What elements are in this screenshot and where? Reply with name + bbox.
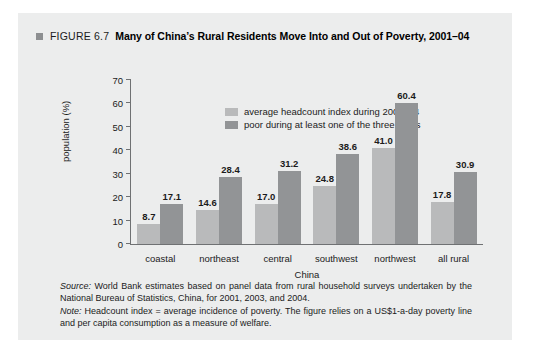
source-label: Source: — [60, 281, 91, 291]
bar-northeast-series-0: 14.6 — [196, 210, 219, 244]
x-tick-label: central — [263, 253, 292, 264]
y-tick-label: 20 — [112, 192, 123, 203]
bar-groups: 8.717.1coastal14.628.4northeast17.031.2c… — [131, 80, 483, 244]
bar-value-label: 60.4 — [397, 90, 416, 101]
figure-title: Many of China’s Rural Residents Move Int… — [115, 30, 469, 42]
note-note: Note: Headcount index = average incidenc… — [60, 305, 472, 330]
bar-value-label: 28.4 — [221, 164, 240, 175]
note-label: Note: — [60, 306, 82, 316]
x-tick-label: northwest — [374, 253, 415, 264]
bar-coastal-series-0: 8.7 — [137, 224, 160, 244]
bar-central-series-1: 31.2 — [278, 171, 301, 244]
bar-value-label: 31.2 — [280, 158, 299, 169]
bar-value-label: 8.7 — [142, 211, 155, 222]
bar-value-label: 30.9 — [456, 159, 475, 170]
figure-number: FIGURE 6.7 — [50, 30, 109, 42]
bar-group: 8.717.1coastal — [137, 80, 183, 244]
x-tick-label: southwest — [315, 253, 358, 264]
figure-panel: FIGURE 6.7 Many of China’s Rural Residen… — [18, 13, 512, 340]
y-tick-label: 10 — [112, 215, 123, 226]
bar-value-label: 17.0 — [257, 191, 276, 202]
plot-area: 010203040506070 average headcount index … — [130, 80, 483, 245]
note-text: Headcount index = average incidence of p… — [60, 306, 472, 328]
bar-value-label: 38.6 — [339, 141, 358, 152]
source-text: World Bank estimates based on panel data… — [60, 281, 472, 303]
bar-northeast-series-1: 28.4 — [219, 177, 242, 244]
y-tick-label: 60 — [112, 98, 123, 109]
y-tick-label: 50 — [112, 121, 123, 132]
y-tick-label: 70 — [112, 75, 123, 86]
x-axis-title: China — [131, 269, 483, 280]
x-tick-label: northeast — [199, 253, 239, 264]
y-axis-title: population (%) — [60, 101, 71, 162]
y-tick-label: 0 — [118, 239, 123, 250]
x-tick-label: all rural — [438, 253, 469, 264]
bar-group: 17.031.2central — [255, 80, 301, 244]
chart-area: population (%) 010203040506070 average h… — [54, 56, 494, 256]
bar-coastal-series-1: 17.1 — [160, 204, 183, 244]
figure-header: FIGURE 6.7 Many of China’s Rural Residen… — [36, 30, 469, 42]
bar-group: 24.838.6southwest — [313, 80, 359, 244]
figure-footnotes: Source: World Bank estimates based on pa… — [60, 280, 472, 329]
y-tick-label: 40 — [112, 145, 123, 156]
bar-group: 14.628.4northeast — [196, 80, 242, 244]
bar-value-label: 41.0 — [374, 135, 393, 146]
bar-northwest-series-1: 60.4 — [395, 103, 418, 245]
bar-central-series-0: 17.0 — [255, 204, 278, 244]
source-note: Source: World Bank estimates based on pa… — [60, 280, 472, 305]
bar-value-label: 17.8 — [433, 189, 452, 200]
x-tick-label: coastal — [145, 253, 175, 264]
bar-value-label: 17.1 — [163, 191, 182, 202]
bar-northwest-series-0: 41.0 — [372, 148, 395, 244]
bar-value-label: 14.6 — [198, 197, 217, 208]
bar-group: 17.830.9all rural — [431, 80, 477, 244]
bar-southwest-series-0: 24.8 — [313, 186, 336, 244]
bar-all-rural-series-1: 30.9 — [454, 172, 477, 244]
bar-value-label: 24.8 — [316, 173, 335, 184]
bar-group: 41.060.4northwest — [372, 80, 418, 244]
figure-bullet-icon — [36, 33, 43, 40]
bar-all-rural-series-0: 17.8 — [431, 202, 454, 244]
bar-southwest-series-1: 38.6 — [336, 154, 359, 244]
y-tick-label: 30 — [112, 168, 123, 179]
